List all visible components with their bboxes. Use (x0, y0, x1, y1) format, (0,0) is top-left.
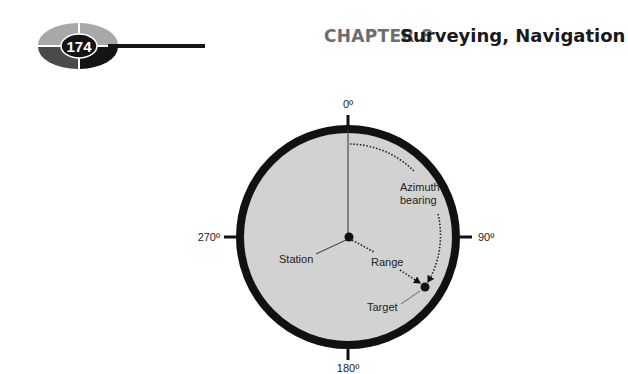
azimuth-label-line2: bearing (400, 194, 437, 206)
label-south: 180º (337, 362, 359, 374)
label-north: 0º (343, 98, 353, 110)
station-label: Station (279, 253, 313, 265)
label-east: 90º (478, 231, 494, 243)
station-point (345, 233, 354, 242)
range-label: Range (371, 256, 403, 268)
target-label: Target (367, 301, 398, 313)
azimuth-label-line1: Azimuth (400, 181, 440, 193)
target-point (421, 283, 430, 292)
azimuth-range-diagram: 0º 90º 180º 270º Azimuth bearing Station… (0, 0, 628, 374)
label-west: 270º (198, 231, 220, 243)
